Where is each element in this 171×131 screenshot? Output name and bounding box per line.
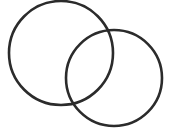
figure-canvas: Two overlapping circles Line drawing of … xyxy=(0,0,171,131)
two-circles-diagram xyxy=(0,0,171,131)
background-rect xyxy=(0,0,171,131)
